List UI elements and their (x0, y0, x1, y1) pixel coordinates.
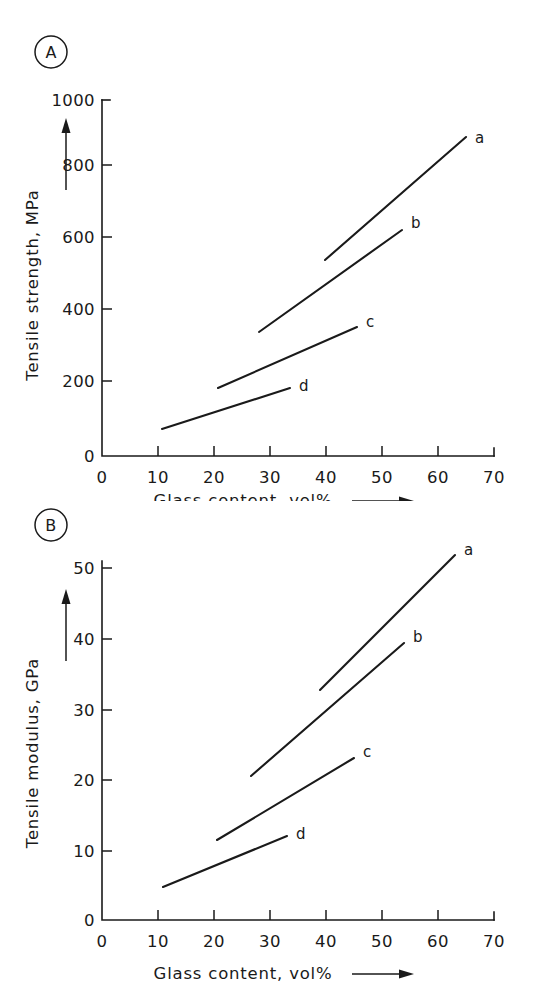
panel-a-x-axis-title: Glass content, vol% (154, 491, 333, 501)
panel-a-label-b: b (411, 214, 421, 232)
panel-b-xtick-60: 60 (427, 932, 449, 951)
panel-b-letter: B (45, 516, 56, 535)
panel-a-ytick-0: 0 (84, 447, 95, 466)
panel-b-line-b (251, 643, 404, 776)
panel-a-line-b (259, 230, 402, 332)
panel-b-label-d: d (296, 825, 306, 843)
panel-b-xtick-10: 10 (147, 932, 169, 951)
panel-a-x-ticks (158, 446, 438, 456)
panel-b-ytick-30: 30 (73, 701, 95, 720)
panel-a-line-c (218, 327, 357, 388)
panel-b-x-ticks (158, 910, 438, 920)
panel-a-label-c: c (366, 313, 374, 331)
panel-b-ytick-50: 50 (73, 559, 95, 578)
panel-b-y-axis-title: Tensile modulus, GPa (23, 658, 42, 849)
panel-a-xtick-10: 10 (147, 468, 169, 487)
panel-a-axes (102, 100, 494, 456)
panel-a-xtick-0: 0 (97, 468, 108, 487)
panel-a-ytick-800: 800 (62, 156, 95, 175)
panel-b-series (163, 555, 455, 887)
panel-a-label-a: a (475, 129, 484, 147)
panel-a-y-axis-title: Tensile strength, MPa (23, 189, 42, 381)
panel-b-plot: B 50 40 30 20 10 0 (0, 501, 539, 1003)
panel-b-label-a: a (464, 541, 473, 559)
panel-a-xtick-40: 40 (315, 468, 337, 487)
panel-a-series (162, 137, 466, 429)
panel-b-x-axis-arrow-icon (352, 970, 414, 979)
panel-a-label-d: d (299, 377, 309, 395)
panel-a-y-ticks (102, 165, 112, 381)
panel-b-badge: B (35, 509, 67, 541)
panel-b-ytick-40: 40 (73, 630, 95, 649)
panel-b: B 50 40 30 20 10 0 (0, 501, 539, 1003)
panel-a-xtick-30: 30 (259, 468, 281, 487)
panel-b-xtick-70: 70 (483, 932, 505, 951)
panel-a-line-d (162, 388, 290, 429)
panel-b-x-axis-title: Glass content, vol% (154, 964, 333, 983)
panel-a-xtick-70: 70 (483, 468, 505, 487)
panel-b-xtick-20: 20 (203, 932, 225, 951)
panel-a-ytick-400: 400 (62, 300, 95, 319)
panel-a-ytick-1000: 1000 (51, 91, 95, 110)
panel-a-xtick-60: 60 (427, 468, 449, 487)
panel-b-y-axis-arrow-icon (62, 589, 71, 661)
panel-a-plot: A 1000 800 600 400 200 0 (0, 0, 539, 501)
panel-b-line-a (320, 555, 455, 690)
panel-b-line-d (163, 836, 287, 887)
panel-b-axes (102, 561, 494, 920)
panel-a-badge: A (35, 36, 67, 68)
panel-b-label-b: b (413, 628, 423, 646)
panel-b-label-c: c (363, 743, 371, 761)
panel-b-ytick-0: 0 (84, 911, 95, 930)
panel-a-xtick-50: 50 (371, 468, 393, 487)
panel-b-ytick-10: 10 (73, 842, 95, 861)
panel-a-xtick-20: 20 (203, 468, 225, 487)
panel-b-y-ticks (102, 568, 112, 851)
panel-a-line-a (325, 137, 466, 260)
panel-b-line-c (217, 758, 354, 840)
panel-a-ytick-200: 200 (62, 372, 95, 391)
panel-b-xtick-0: 0 (97, 932, 108, 951)
panel-b-xtick-30: 30 (259, 932, 281, 951)
panel-a-y-axis-arrow-icon (62, 118, 71, 190)
panel-a: A 1000 800 600 400 200 0 (0, 0, 539, 501)
panel-a-letter: A (45, 43, 56, 62)
panel-a-ytick-600: 600 (62, 228, 95, 247)
panel-b-xtick-50: 50 (371, 932, 393, 951)
panel-b-ytick-20: 20 (73, 771, 95, 790)
figure-root: A 1000 800 600 400 200 0 (0, 0, 539, 1003)
panel-b-xtick-40: 40 (315, 932, 337, 951)
